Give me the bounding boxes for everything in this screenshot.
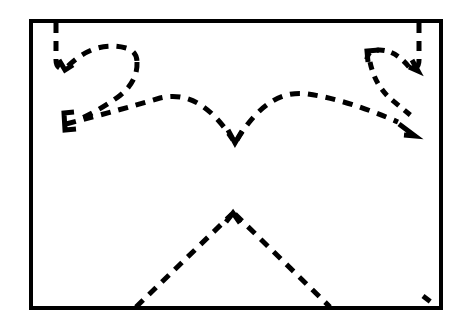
- figure-root: [0, 0, 463, 325]
- line-art-diagram: [0, 0, 463, 325]
- figure-background: [0, 0, 463, 325]
